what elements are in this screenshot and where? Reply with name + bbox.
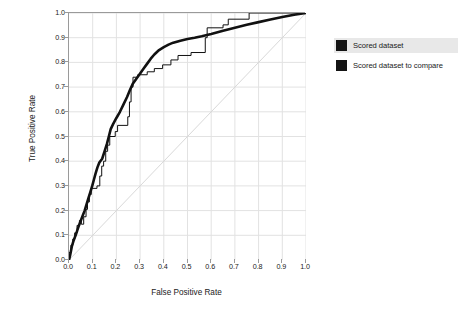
y-axis-tick-label: 0.9: [40, 32, 65, 41]
x-axis-tick-label: 0.5: [182, 262, 192, 271]
x-axis-tick-label: 0.4: [158, 262, 168, 271]
y-axis-tick-mark: [64, 160, 68, 161]
x-axis-tick-label: 0.8: [253, 262, 263, 271]
x-axis-tick-mark: [258, 259, 259, 263]
x-axis-tick-mark: [187, 259, 188, 263]
y-axis-tick-label: 0.1: [40, 230, 65, 239]
x-axis-tick-label: 0.1: [87, 262, 97, 271]
y-axis-tick-label: 0.5: [40, 131, 65, 140]
y-axis-tick-label: 0.4: [40, 156, 65, 165]
y-axis-tick-mark: [64, 185, 68, 186]
y-axis-tick-label: 1.0: [40, 8, 65, 17]
y-axis-tick-mark: [64, 37, 68, 38]
y-axis-tick-label: 0.7: [40, 82, 65, 91]
x-axis-tick-label: 0.2: [111, 262, 121, 271]
x-axis-tick-label: 0.6: [205, 262, 215, 271]
legend-label: Scored dataset to compare: [353, 61, 443, 70]
y-axis-tick-mark: [64, 136, 68, 137]
y-axis-tick-label: 0.6: [40, 106, 65, 115]
y-axis-tick-mark: [64, 12, 68, 13]
x-axis-title: False Positive Rate: [68, 288, 305, 297]
plot-area: [68, 12, 305, 259]
y-axis-tick-label: 0.2: [40, 205, 65, 214]
y-axis-tick-mark: [64, 234, 68, 235]
legend-swatch-icon: [336, 40, 347, 51]
y-axis-tick-labels: 0.00.10.20.30.40.50.60.70.80.91.0: [40, 12, 65, 259]
x-axis-tick-mark: [139, 259, 140, 263]
x-axis-tick-label: 1.0: [300, 262, 310, 271]
x-axis-tick-labels: 0.00.10.20.30.40.50.60.70.80.91.0: [68, 262, 305, 276]
roc-chart-figure: 0.00.10.20.30.40.50.60.70.80.91.0 0.00.1…: [0, 0, 461, 312]
legend-item-scored-dataset-to-compare[interactable]: Scored dataset to compare: [334, 58, 458, 73]
x-axis-tick-mark: [163, 259, 164, 263]
x-axis-tick-label: 0.7: [229, 262, 239, 271]
y-axis-tick-label: 0.8: [40, 57, 65, 66]
x-axis-tick-label: 0.0: [63, 262, 73, 271]
y-axis-tick-label: 0.0: [40, 255, 65, 264]
x-axis-tick-label: 0.9: [276, 262, 286, 271]
y-axis-tick-mark: [64, 61, 68, 62]
x-axis-tick-mark: [92, 259, 93, 263]
x-axis-tick-mark: [281, 259, 282, 263]
legend-item-scored-dataset[interactable]: Scored dataset: [334, 38, 458, 53]
y-axis-tick-mark: [64, 86, 68, 87]
y-axis-tick-mark: [64, 111, 68, 112]
y-axis-tick-mark: [64, 210, 68, 211]
legend-swatch-icon: [336, 60, 347, 71]
roc-curves-svg: [69, 13, 306, 260]
legend-label: Scored dataset: [353, 41, 403, 50]
x-axis-tick-mark: [68, 259, 69, 263]
y-axis-title: True Positive Rate: [28, 49, 37, 209]
x-axis-tick-mark: [210, 259, 211, 263]
x-axis-tick-mark: [234, 259, 235, 263]
x-axis-tick-mark: [115, 259, 116, 263]
x-axis-tick-mark: [305, 259, 306, 263]
x-axis-tick-label: 0.3: [134, 262, 144, 271]
chart-legend: Scored dataset Scored dataset to compare: [334, 38, 458, 78]
y-axis-tick-label: 0.3: [40, 180, 65, 189]
